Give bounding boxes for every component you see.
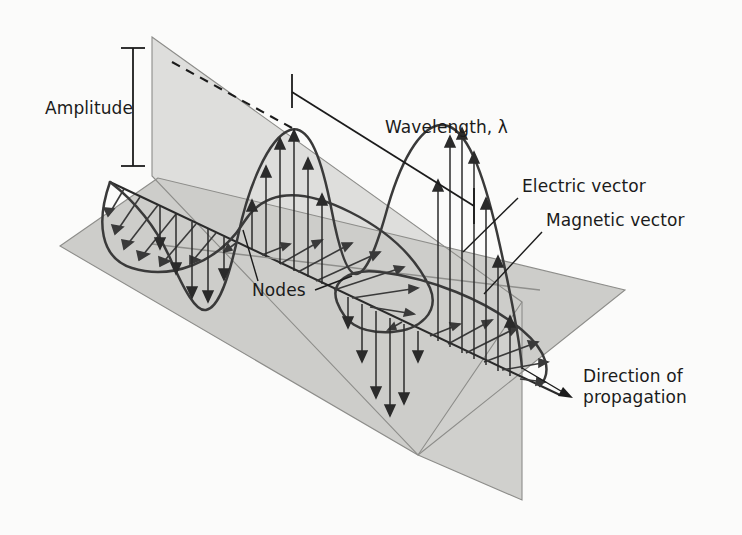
direction-label-line1: Direction of: [583, 366, 684, 386]
direction-label-line2: propagation: [583, 387, 687, 407]
amplitude-label: Amplitude: [45, 98, 133, 118]
magnetic-vector-label: Magnetic vector: [546, 210, 685, 230]
electric-vector-label: Electric vector: [522, 176, 646, 196]
electromagnetic-wave-diagram: Amplitude Wavelength, λ Electric vector …: [0, 0, 742, 535]
wavelength-label: Wavelength, λ: [385, 117, 508, 137]
figure-root: Amplitude Wavelength, λ Electric vector …: [0, 0, 742, 535]
nodes-label: Nodes: [252, 280, 306, 300]
